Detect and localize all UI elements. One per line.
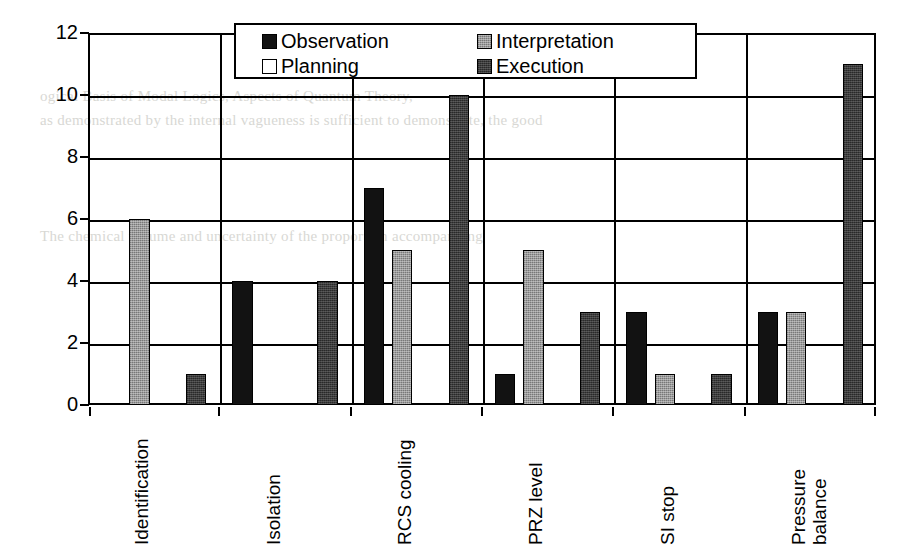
x-tick-mark-2 bbox=[350, 407, 352, 416]
x-tick-mark-0 bbox=[89, 407, 91, 416]
x-tick-mark-end bbox=[874, 407, 876, 416]
bar-group bbox=[745, 33, 876, 405]
x-axis-label-line: Identification bbox=[131, 438, 152, 545]
legend-entry-observation[interactable]: Observation bbox=[262, 29, 477, 54]
bar-execution-3[interactable] bbox=[580, 312, 600, 405]
x-axis-label-2: RCS cooling bbox=[394, 407, 415, 545]
x-axis-label-4: SI stop bbox=[657, 407, 678, 545]
y-tick-label-8: 8 bbox=[44, 146, 78, 166]
interpretation-swatch-icon bbox=[477, 34, 492, 49]
bar-observation-1[interactable] bbox=[232, 281, 252, 405]
bar-interpretation-2[interactable] bbox=[392, 250, 412, 405]
x-axis-label-line: PRZ level bbox=[525, 463, 546, 545]
y-tick-label-0: 0 bbox=[44, 394, 78, 414]
x-tick-mark-4 bbox=[612, 407, 614, 416]
legend-entry-execution[interactable]: Execution bbox=[477, 54, 695, 79]
legend-label: Planning bbox=[281, 56, 359, 77]
legend-label: Execution bbox=[496, 56, 584, 77]
x-axis-label-1: Isolation bbox=[263, 407, 284, 545]
bars-layer bbox=[88, 33, 876, 405]
bar-group bbox=[482, 33, 613, 405]
bar-observation-5[interactable] bbox=[758, 312, 778, 405]
y-tick-label-6: 6 bbox=[44, 208, 78, 228]
x-axis-labels: IdentificationIsolationRCS coolingPRZ le… bbox=[88, 407, 876, 549]
x-axis-label-line: SI stop bbox=[657, 486, 678, 545]
x-axis-label-0: Identification bbox=[131, 407, 152, 545]
x-tick-mark-3 bbox=[481, 407, 483, 416]
legend-label: Observation bbox=[281, 31, 389, 52]
planning-swatch-icon bbox=[262, 59, 277, 74]
x-axis-label-line: RCS cooling bbox=[394, 439, 415, 545]
bar-execution-4[interactable] bbox=[711, 374, 731, 405]
bar-observation-4[interactable] bbox=[626, 312, 646, 405]
x-tick-mark-1 bbox=[218, 407, 220, 416]
x-axis-label-line: Isolation bbox=[263, 474, 284, 545]
legend-entry-interpretation[interactable]: Interpretation bbox=[477, 29, 695, 54]
bar-interpretation-3[interactable] bbox=[523, 250, 543, 405]
bar-observation-2[interactable] bbox=[364, 188, 384, 405]
chart-legend: ObservationInterpretationPlanningExecuti… bbox=[234, 23, 697, 79]
bar-group bbox=[219, 33, 350, 405]
bar-execution-1[interactable] bbox=[317, 281, 337, 405]
bar-group bbox=[351, 33, 482, 405]
x-tick-mark-5 bbox=[744, 407, 746, 416]
bar-execution-2[interactable] bbox=[449, 95, 469, 405]
observation-swatch-icon bbox=[262, 34, 277, 49]
bar-execution-0[interactable] bbox=[186, 374, 206, 405]
bar-group bbox=[88, 33, 219, 405]
x-axis-label-line: Pressure bbox=[788, 469, 809, 545]
legend-entry-planning[interactable]: Planning bbox=[262, 54, 477, 79]
bar-interpretation-4[interactable] bbox=[655, 374, 675, 405]
x-axis-label-3: PRZ level bbox=[525, 407, 546, 545]
bar-execution-5[interactable] bbox=[843, 64, 863, 405]
bar-observation-3[interactable] bbox=[495, 374, 515, 405]
execution-swatch-icon bbox=[477, 59, 492, 74]
y-tick-label-4: 4 bbox=[44, 270, 78, 290]
bar-group bbox=[613, 33, 744, 405]
y-tick-label-10: 10 bbox=[44, 84, 78, 104]
y-tick-label-2: 2 bbox=[44, 332, 78, 352]
bar-interpretation-5[interactable] bbox=[786, 312, 806, 405]
legend-label: Interpretation bbox=[496, 31, 614, 52]
bar-interpretation-0[interactable] bbox=[129, 219, 149, 405]
y-tick-label-12: 12 bbox=[44, 22, 78, 42]
bar-chart-figure: 024681012 IdentificationIsolationRCS coo… bbox=[0, 0, 909, 549]
x-axis-label-5: Pressurebalance bbox=[788, 407, 830, 545]
x-axis-label-line: balance bbox=[809, 407, 830, 545]
